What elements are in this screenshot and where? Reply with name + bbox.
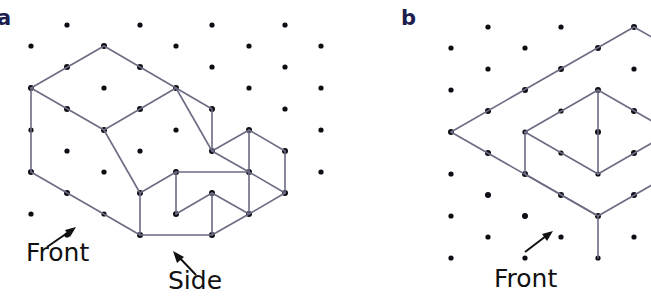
figure-canvas: a b Front Side Front bbox=[0, 0, 651, 302]
panel-b-solid-edges bbox=[451, 27, 651, 258]
panel-label-b: b bbox=[401, 8, 416, 29]
front-label-a: Front bbox=[26, 240, 89, 265]
front-arrow-b-icon bbox=[525, 231, 553, 252]
isometric-drawing-svg bbox=[0, 0, 651, 302]
panel-label-a: a bbox=[0, 8, 11, 29]
front-label-b: Front bbox=[494, 266, 557, 291]
panel-a-solid-edges bbox=[31, 46, 285, 235]
side-label-a: Side bbox=[168, 268, 222, 293]
